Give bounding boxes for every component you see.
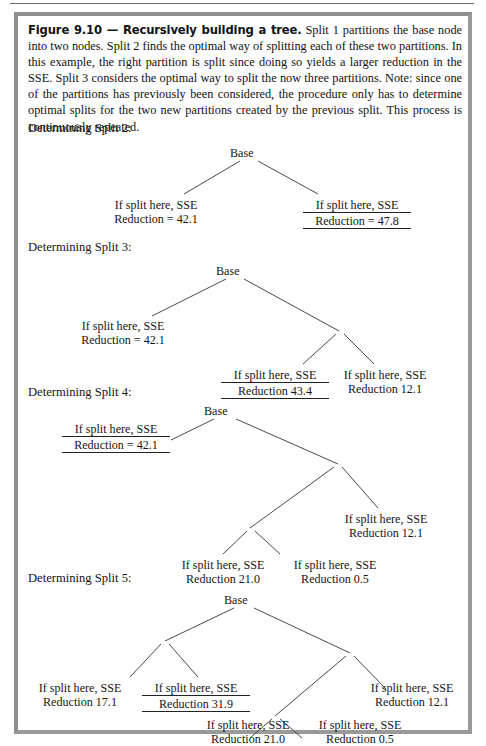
section-label-split-4: Determining Split 4:: [28, 385, 132, 400]
edge-4-right-left: [250, 467, 334, 528]
edge-5-left: [165, 608, 234, 641]
tree-4-leaf-4-line2: Reduction 12.1: [332, 526, 440, 540]
tree-4-leaf-2: If split here, SSE Reduction 21.0: [167, 558, 279, 586]
tree-5-leaf-3-line1: If split here, SSE: [192, 718, 304, 732]
figure-caption-title: Figure 9.10 — Recursively building a tre…: [28, 23, 302, 37]
edge-5-right-left: [275, 656, 346, 716]
tree-4-leaf-2-line1: If split here, SSE: [167, 558, 279, 572]
edge-3-left: [152, 279, 226, 316]
edge-5-left-left: [130, 644, 161, 677]
tree-4-leaf-1-selected: If split here, SSE Reduction = 42.1: [62, 422, 170, 453]
tree-4-leaf-3: If split here, SSE Reduction 0.5: [281, 558, 389, 586]
tree-3-leaf-3-line1: If split here, SSE: [331, 368, 439, 382]
tree-2-leaf-2-selected: If split here, SSE Reduction = 47.8: [303, 198, 411, 229]
tree-4-leaf-1-line2: Reduction = 42.1: [62, 438, 170, 453]
tree-2-leaf-1-line2: Reduction = 42.1: [96, 212, 216, 226]
tree-3-leaf-3-line2: Reduction 12.1: [331, 382, 439, 396]
tree-2-root: Base: [230, 146, 254, 161]
edge-5-left-right: [169, 644, 198, 677]
tree-5-leaf-5-line1: If split here, SSE: [358, 681, 466, 695]
tree-5-leaf-1-line1: If split here, SSE: [24, 681, 136, 695]
edge-2-left: [184, 161, 240, 194]
tree-4-leaf-2-line2: Reduction 21.0: [167, 572, 279, 586]
section-label-split-3: Determining Split 3:: [28, 240, 132, 255]
tree-5-leaf-4-line2: Reduction 0.5: [306, 732, 414, 746]
tree-3-root: Base: [216, 264, 240, 279]
tree-4-leaf-3-line1: If split here, SSE: [281, 558, 389, 572]
figure-frame: Figure 9.10 — Recursively building a tre…: [14, 12, 472, 734]
tree-3-leaf-2-line2: Reduction 43.4: [221, 384, 329, 399]
tree-3-leaf-1-line1: If split here, SSE: [63, 319, 183, 333]
tree-2-leaf-1-line1: If split here, SSE: [96, 198, 216, 212]
tree-2-leaf-2-line2: Reduction = 47.8: [303, 214, 411, 229]
tree-4-leaf-3-line2: Reduction 0.5: [281, 572, 389, 586]
figure-caption-body: Split 1 partitions the base node into tw…: [28, 23, 462, 134]
tree-5-leaf-4: If split here, SSE Reduction 0.5: [306, 718, 414, 746]
section-label-split-2: Determining Split 2:: [28, 121, 132, 136]
figure-content: Figure 9.10 — Recursively building a tre…: [18, 16, 468, 730]
tree-5-leaf-2-line1: If split here, SSE: [142, 681, 250, 696]
edge-4-right: [236, 419, 338, 464]
tree-5-leaf-3: If split here, SSE Reduction 21.0: [192, 718, 304, 746]
tree-5-leaf-2-selected: If split here, SSE Reduction 31.9: [142, 681, 250, 712]
edge-4-left: [171, 419, 214, 440]
tree-5-root: Base: [224, 593, 248, 608]
tree-3-leaf-1: If split here, SSE Reduction = 42.1: [63, 319, 183, 347]
tree-4-leaf-4: If split here, SSE Reduction 12.1: [332, 512, 440, 540]
edge-4-rl-right: [255, 531, 280, 554]
tree-5-leaf-1: If split here, SSE Reduction 17.1: [24, 681, 136, 709]
tree-2-leaf-2-line1: If split here, SSE: [303, 198, 411, 213]
edge-2-right: [258, 161, 318, 194]
edge-4-right-right: [342, 467, 378, 508]
tree-4-root: Base: [204, 404, 228, 419]
figure-caption: Figure 9.10 — Recursively building a tre…: [28, 22, 462, 135]
tree-4-leaf-4-line1: If split here, SSE: [332, 512, 440, 526]
tree-3-leaf-1-line2: Reduction = 42.1: [63, 333, 183, 347]
tree-5-leaf-5: If split here, SSE Reduction 12.1: [358, 681, 466, 709]
edge-5-right: [254, 608, 350, 653]
page-top-rule: [10, 3, 474, 4]
tree-4-leaf-1-line1: If split here, SSE: [62, 422, 170, 437]
tree-3-leaf-2-line1: If split here, SSE: [221, 368, 329, 383]
tree-2-leaf-1: If split here, SSE Reduction = 42.1: [96, 198, 216, 226]
tree-5-leaf-3-line2: Reduction 21.0: [192, 732, 304, 746]
tree-3-leaf-2-selected: If split here, SSE Reduction 43.4: [221, 368, 329, 399]
edge-4-rl-left: [223, 531, 247, 554]
tree-5-leaf-5-line2: Reduction 12.1: [358, 695, 466, 709]
tree-5-leaf-4-line1: If split here, SSE: [306, 718, 414, 732]
tree-3-leaf-3: If split here, SSE Reduction 12.1: [331, 368, 439, 396]
edge-3-right: [244, 279, 339, 331]
tree-5-leaf-1-line2: Reduction 17.1: [24, 695, 136, 709]
edge-3-right-right: [344, 334, 374, 364]
edge-3-right-left: [303, 334, 336, 364]
tree-5-leaf-2-line2: Reduction 31.9: [142, 697, 250, 712]
section-label-split-5: Determining Split 5:: [28, 571, 132, 586]
